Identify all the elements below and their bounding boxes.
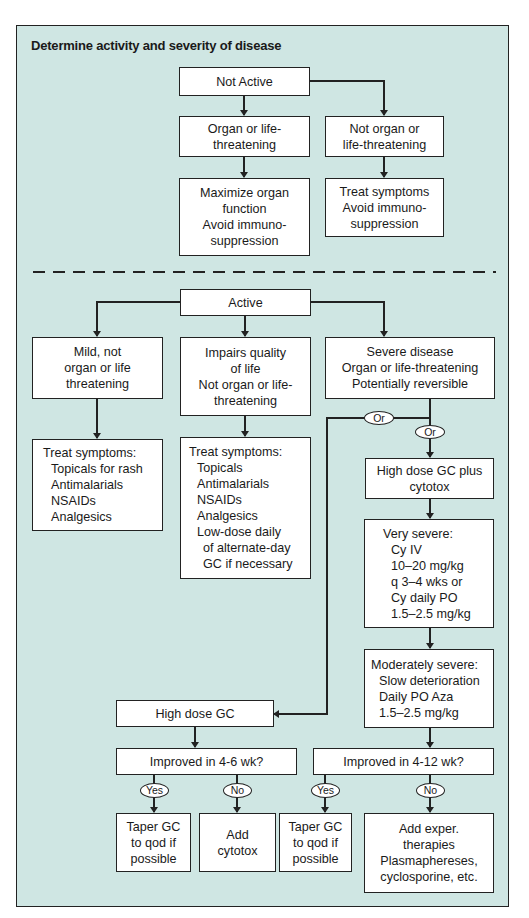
box-line: threatening xyxy=(214,393,277,409)
mild-box: Mild, not organ or life threatening xyxy=(32,337,163,399)
improved-4-6-box: Improved in 4-6 wk? xyxy=(116,748,297,775)
box-line: Antimalarials xyxy=(189,476,269,492)
box-line: Potentially reversible xyxy=(352,376,468,392)
box-line: Mild, not xyxy=(74,344,122,360)
box-line: Add xyxy=(226,827,248,843)
improved-4-12-box: Improved in 4-12 wk? xyxy=(313,748,494,775)
box-line: suppression xyxy=(211,233,279,249)
box-line: to qod if xyxy=(131,835,176,851)
yes-label-2: Yes xyxy=(311,783,340,798)
maximize-organ-function-box: Maximize organ function Avoid immuno- su… xyxy=(179,178,310,256)
add-cytotox-box: Add cytotox xyxy=(199,813,276,872)
box-line: Avoid immuno- xyxy=(203,217,287,233)
box-line: q 3–4 wks or xyxy=(383,574,462,590)
box-line: Treat symptoms: xyxy=(43,445,136,461)
mild-treatment-box: Treat symptoms: Topicals for rash Antima… xyxy=(32,439,163,531)
box-label: High dose GC xyxy=(155,706,234,722)
box-line: Cy IV xyxy=(383,542,422,558)
box-line: Taper GC xyxy=(289,819,343,835)
box-line: Moderately severe: xyxy=(371,657,478,673)
active-box: Active xyxy=(180,289,311,316)
box-line: Severe disease xyxy=(367,344,454,360)
box-line: organ or life xyxy=(64,360,131,376)
box-line: Not organ or life- xyxy=(199,377,293,393)
or-label-1: Or xyxy=(364,411,394,425)
box-line: Slow deterioration xyxy=(371,673,480,689)
high-dose-gc-plus-cytotox-box: High dose GC plus cytotox xyxy=(365,458,494,499)
box-line: NSAIDs xyxy=(189,492,242,508)
not-organ-threatening-box: Not organ or life-threatening xyxy=(325,116,444,157)
box-line: Very severe: xyxy=(383,526,453,542)
not-active-box: Not Active xyxy=(179,67,310,96)
box-line: Analgesics xyxy=(43,509,112,525)
box-line: Treat symptoms: xyxy=(189,444,282,460)
box-line: suppression xyxy=(351,216,419,232)
very-severe-box: Very severe: Cy IV 10–20 mg/kg q 3–4 wks… xyxy=(364,519,494,628)
box-line: Topicals xyxy=(189,460,243,476)
box-line: 1.5–2.5 mg/kg xyxy=(371,705,459,721)
box-line: therapies xyxy=(403,837,455,853)
box-line: Daily PO Aza xyxy=(371,689,453,705)
treat-symptoms-avoid-box: Treat symptoms Avoid immuno- suppression xyxy=(325,178,444,237)
box-line: GC if necessary xyxy=(189,556,293,572)
impairs-treatment-box: Treat symptoms: Topicals Antimalarials N… xyxy=(180,437,311,579)
taper-gc-box-2: Taper GC to qod if possible xyxy=(279,813,352,872)
box-line: function xyxy=(222,201,266,217)
moderately-severe-box: Moderately severe: Slow deterioration Da… xyxy=(364,649,494,728)
box-line: Add exper. xyxy=(399,821,459,837)
chart-title: Determine activity and severity of disea… xyxy=(31,38,281,53)
organ-threatening-box: Organ or life- threatening xyxy=(179,116,310,157)
box-line: Treat symptoms xyxy=(340,184,430,200)
box-line: Avoid immuno- xyxy=(343,200,427,216)
box-line: possible xyxy=(292,851,338,867)
box-line: cytotox xyxy=(410,479,450,495)
or-label-2: Or xyxy=(415,425,445,439)
box-line: NSAIDs xyxy=(43,493,96,509)
box-line: to qod if xyxy=(293,835,338,851)
add-experimental-therapies-box: Add exper. therapies Plasmaphereses, cyc… xyxy=(364,813,494,893)
box-line: Organ or life- xyxy=(208,121,282,137)
impairs-quality-box: Impairs quality of life Not organ or lif… xyxy=(180,337,311,416)
box-line: possible xyxy=(130,851,176,867)
box-line: Taper GC xyxy=(127,819,181,835)
severe-disease-box: Severe disease Organ or life-threatening… xyxy=(325,337,495,399)
box-line: life-threatening xyxy=(343,137,426,153)
box-label: Improved in 4-6 wk? xyxy=(150,754,263,770)
box-line: Low-dose daily xyxy=(189,524,281,540)
box-line: Antimalarials xyxy=(43,477,123,493)
box-line: of alternate-day xyxy=(189,540,291,556)
high-dose-gc-box: High dose GC xyxy=(116,700,274,727)
box-line: threatening xyxy=(213,137,276,153)
box-line: of life xyxy=(230,361,260,377)
box-line: cyclosporine, etc. xyxy=(380,869,477,885)
box-line: cytotox xyxy=(218,843,258,859)
box-line: 1.5–2.5 mg/kg xyxy=(383,606,471,622)
box-line: High dose GC plus xyxy=(377,463,483,479)
box-line: Topicals for rash xyxy=(43,461,143,477)
box-label: Active xyxy=(228,295,262,311)
box-line: Organ or life-threatening xyxy=(342,360,479,376)
box-line: Cy daily PO xyxy=(383,590,458,606)
box-line: Analgesics xyxy=(189,508,258,524)
box-line: threatening xyxy=(66,376,129,392)
box-line: Plasmaphereses, xyxy=(380,853,477,869)
yes-label-1: Yes xyxy=(140,783,169,798)
box-label: Improved in 4-12 wk? xyxy=(343,754,463,770)
box-line: Not organ or xyxy=(349,121,419,137)
box-line: Maximize organ xyxy=(200,185,289,201)
box-line: 10–20 mg/kg xyxy=(383,558,464,574)
box-label: Not Active xyxy=(216,74,273,90)
no-label-1: No xyxy=(223,783,252,798)
box-line: Impairs quality xyxy=(205,345,286,361)
taper-gc-box-1: Taper GC to qod if possible xyxy=(116,813,191,872)
no-label-2: No xyxy=(416,783,445,798)
